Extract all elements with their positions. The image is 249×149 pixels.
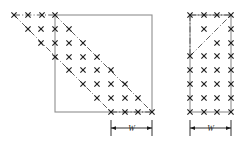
sample-point-marker: [94, 67, 99, 72]
dimension-arrowhead-left: [111, 126, 116, 130]
sample-point-marker: [214, 40, 219, 45]
sample-point-marker: [94, 81, 99, 86]
sample-point-marker: [38, 26, 43, 31]
dimension-arrowhead-right: [226, 126, 231, 130]
sample-point-marker: [201, 67, 206, 72]
left-band-lines: [14, 15, 152, 112]
sample-point-marker: [108, 81, 113, 86]
sample-point-marker: [214, 67, 219, 72]
sample-point-marker: [201, 81, 206, 86]
sample-point-marker: [201, 95, 206, 100]
right-marker-group: [187, 12, 233, 114]
diagram-canvas: W W: [0, 0, 249, 149]
sample-point-marker: [122, 95, 127, 100]
sample-point-marker: [214, 95, 219, 100]
sample-point-marker: [122, 81, 127, 86]
dimension-arrowhead-left: [190, 126, 195, 130]
sample-point-marker: [66, 26, 71, 31]
dimension-arrowhead-right: [147, 126, 152, 130]
sample-point-marker: [214, 81, 219, 86]
sample-point-marker: [80, 67, 85, 72]
sample-point-marker: [108, 95, 113, 100]
sample-point-marker: [214, 53, 219, 58]
sample-point-marker: [80, 40, 85, 45]
left-marker-group: [11, 12, 154, 114]
sample-point-marker: [80, 54, 85, 59]
dashdot-diagonal: [190, 15, 231, 56]
sample-point-marker: [38, 40, 43, 45]
sample-point-marker: [94, 54, 99, 59]
sample-point-marker: [94, 95, 99, 100]
sample-point-marker: [66, 67, 71, 72]
sample-point-marker: [135, 95, 140, 100]
right-figure: W: [187, 12, 233, 136]
right-band-lines: [190, 15, 231, 56]
sample-point-marker: [80, 81, 85, 86]
sample-point-marker: [108, 67, 113, 72]
sample-point-marker: [201, 53, 206, 58]
figure-root: W W: [0, 0, 249, 149]
sample-point-marker: [66, 40, 71, 45]
sample-point-marker: [66, 54, 71, 59]
sample-point-marker: [25, 26, 30, 31]
left-figure: W: [11, 12, 154, 136]
right-rectangle-outline: [190, 15, 231, 112]
sample-point-marker: [201, 26, 206, 31]
